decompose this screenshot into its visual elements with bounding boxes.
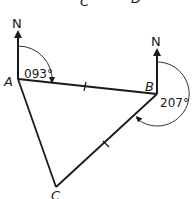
- bearings-diagram: C D N N 093° 207° A B C: [0, 0, 194, 199]
- bearing-arc-b: [136, 62, 189, 126]
- north-arrow-a: N: [12, 16, 22, 79]
- top-cut-label-c: C: [80, 0, 90, 9]
- arrow-head-icon: [14, 30, 22, 38]
- point-label-a: A: [3, 74, 13, 89]
- bearing-label-a: 093°: [24, 67, 53, 81]
- side-ac: [18, 79, 56, 187]
- side-ab: [18, 79, 157, 94]
- bearing-label-b: 207°: [160, 96, 189, 110]
- point-label-c: C: [51, 188, 61, 199]
- north-label-a: N: [12, 16, 22, 31]
- north-label-b: N: [151, 34, 161, 49]
- side-bc: [56, 94, 157, 187]
- top-cut-label-d: D: [131, 0, 141, 6]
- arrow-head-icon: [153, 48, 161, 56]
- point-label-b: B: [145, 79, 154, 94]
